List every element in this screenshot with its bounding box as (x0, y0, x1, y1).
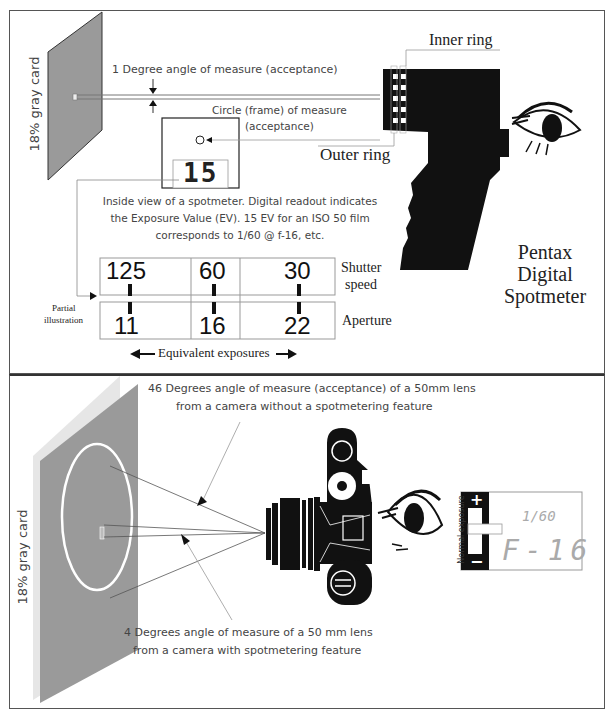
aperture-16: 16 (199, 312, 226, 340)
outer-ring-label: Outer ring (320, 145, 390, 165)
aperture-display: F-16 (502, 534, 593, 567)
wide-angle-label-line1: 46 Degrees angle of measure (acceptance)… (148, 382, 476, 395)
one-degree-label: 1 Degree angle of measure (acceptance) (112, 63, 338, 76)
gray-card-label-bottom: 18% gray card (15, 515, 30, 605)
partial-label-line1: Partial (52, 303, 76, 313)
normal-exposure-label: Normal exposure (457, 492, 466, 568)
shutter-display: 1/60 (522, 508, 556, 524)
gray-card-label-top: 18% gray card (27, 72, 42, 152)
aperture-label: Aperture (342, 313, 392, 329)
shutter-label-line2: speed (345, 277, 377, 293)
shutter-label-line1: Shutter (341, 260, 381, 276)
shutter-30: 30 (284, 257, 311, 285)
spot-angle-label-line1: 4 Degrees angle of measure of a 50 mm le… (124, 626, 373, 639)
device-title: Pentax Digital Spotmeter (490, 241, 600, 307)
ev-readout: 15 (183, 158, 218, 188)
shutter-125: 125 (106, 257, 146, 285)
spotmeter-description: Inside view of a spotmeter. Digital read… (80, 193, 400, 244)
aperture-11: 11 (114, 312, 139, 340)
minus-sign: − (470, 552, 483, 571)
circle-label-line2: (acceptance) (245, 120, 314, 132)
shutter-60: 60 (199, 257, 226, 285)
aperture-22: 22 (284, 312, 311, 340)
plus-sign: + (470, 490, 483, 509)
eye-top (512, 103, 580, 155)
wide-angle-label-line2: from a camera without a spotmetering fea… (176, 400, 433, 413)
spot-angle-label-line2: from a camera with spotmetering feature (133, 644, 361, 657)
inner-ring-label: Inner ring (429, 31, 493, 49)
circle-label-line1: Circle (frame) of measure (212, 104, 347, 116)
equivalent-exposures-label: Equivalent exposures (158, 345, 270, 361)
partial-label-line2: illustration (44, 315, 83, 325)
